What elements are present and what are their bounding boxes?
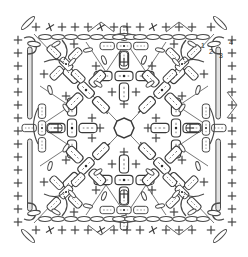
row-label-2: 2 — [209, 48, 213, 55]
row-label-1: 1 — [201, 42, 205, 49]
stitch-chart-diagram: 1 2 3 4 — [0, 0, 248, 257]
center-ring — [114, 118, 134, 138]
crochet-chart-canvas: Crochet Square Motif Stitch Chart — [0, 0, 248, 257]
chain-row-top-right — [125, 35, 210, 40]
row-label-3: 3 — [219, 52, 223, 59]
row-label-4: 4 — [229, 39, 233, 46]
chain-row-bottom-right — [125, 217, 210, 222]
